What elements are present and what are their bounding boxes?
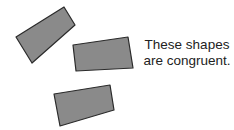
quadrilateral-shape-2: [73, 37, 133, 71]
caption-line-1: These shapes: [141, 37, 233, 53]
quadrilateral-shape-1: [16, 7, 75, 63]
congruence-caption: These shapes are congruent.: [141, 37, 233, 69]
caption-line-2: are congruent.: [141, 53, 233, 69]
quadrilateral-shape-3: [54, 85, 114, 126]
diagram-canvas: These shapes are congruent.: [0, 0, 234, 130]
